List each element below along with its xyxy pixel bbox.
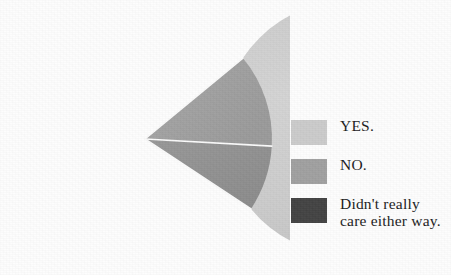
chart-legend: YES. NO. Didn't really care either way.: [291, 118, 451, 229]
legend-label-yes: YES.: [340, 118, 374, 135]
legend-label-no: NO.: [340, 157, 367, 174]
legend-item-didnt-care: Didn't really care either way.: [291, 196, 451, 229]
pie-chart-svg: [0, 0, 290, 275]
legend-item-no: NO.: [291, 157, 451, 184]
pie-slice-didnt-care: [145, 139, 272, 209]
legend-label-didnt-care: Didn't really care either way.: [340, 196, 441, 229]
pie-chart-figure: YES. NO. Didn't really care either way.: [0, 0, 451, 275]
legend-item-yes: YES.: [291, 118, 451, 145]
pie-chart: [0, 0, 290, 275]
legend-swatch-no: [291, 159, 327, 184]
legend-swatch-didnt-care: [291, 198, 327, 223]
legend-swatch-yes: [291, 120, 327, 145]
